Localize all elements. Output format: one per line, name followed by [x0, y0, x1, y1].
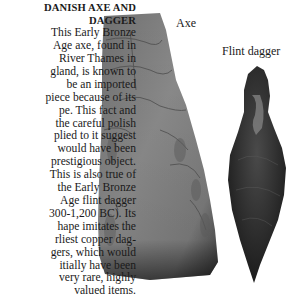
caption-line: gers, which would [0, 247, 136, 260]
caption-line: Age flint dagger [0, 195, 136, 208]
caption-line: be an imported [0, 79, 136, 92]
dagger-image [228, 66, 286, 283]
dagger-label: Flint dagger [222, 44, 280, 59]
axe-label: Axe [176, 16, 196, 31]
caption-line: rliest copper dag- [0, 234, 136, 247]
caption-heading: DANISH AXE AND DAGGER [0, 2, 136, 27]
caption-line: 300-1,200 BC). Its [0, 208, 136, 221]
caption-line: gland, is known to [0, 66, 136, 79]
caption-line: pe. This fact and [0, 105, 136, 118]
caption-line: hape imitates the [0, 221, 136, 234]
caption-block: DANISH AXE AND DAGGER This Early Bronze … [0, 2, 136, 298]
caption-body: This Early Bronze Age axe, found in Rive… [0, 27, 136, 298]
caption-line: piece because of its [0, 92, 136, 105]
caption-line: valued items. [0, 285, 136, 298]
caption-line: River Thames in [0, 53, 136, 66]
caption-heading-line: DANISH AXE AND [0, 2, 136, 15]
